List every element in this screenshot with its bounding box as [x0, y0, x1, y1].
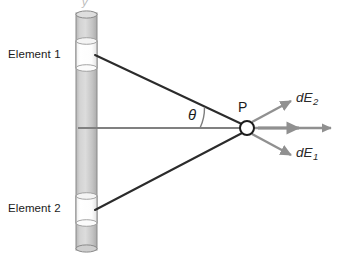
vector-de1-subscript: 1 [313, 151, 318, 162]
diagram-canvas [0, 0, 345, 263]
element-1-label: Element 1 [8, 49, 61, 61]
axis-label-y-cropped: y [82, 0, 88, 8]
rod-element-2-bottom-edge [76, 220, 97, 227]
field-diagram-figure: y Element 1 Element 2 P θ dE2 dE1 [0, 0, 345, 263]
vector-de2-base: dE [296, 90, 313, 105]
charged-rod [76, 11, 97, 252]
vector-de2-arrow [252, 101, 291, 122]
rod-top-cap [76, 11, 97, 18]
angle-theta-label: θ [188, 107, 196, 122]
vector-de1-base: dE [296, 145, 313, 160]
ray-element-1-to-p [95, 55, 246, 126]
vector-de2-label: dE2 [296, 91, 318, 105]
angle-arc-theta [200, 107, 205, 128]
ray-element-2-to-p [95, 131, 246, 210]
rod-element-1-bottom-edge [76, 65, 97, 72]
vector-de2-subscript: 2 [313, 96, 318, 107]
rod-bottom-cap [76, 245, 97, 252]
point-p-marker [240, 121, 254, 135]
rod-element-2-top-edge [76, 193, 97, 200]
vector-de1-arrow [252, 134, 291, 155]
element-2-label: Element 2 [8, 203, 61, 215]
point-p-label: P [238, 100, 247, 114]
rod-element-1-top-edge [76, 38, 97, 45]
rod-element-1-segment [76, 41, 97, 68]
vector-de1-label: dE1 [296, 146, 318, 160]
rod-element-2-segment [76, 196, 97, 223]
